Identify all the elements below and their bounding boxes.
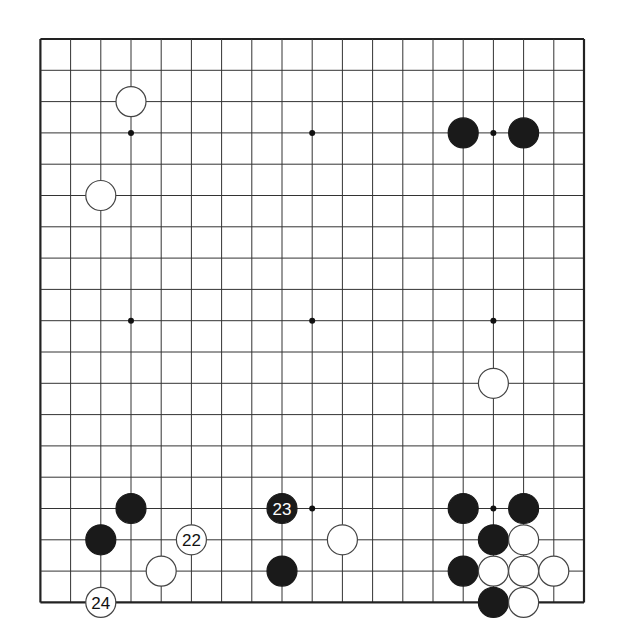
white-stone bbox=[478, 368, 508, 398]
star-point bbox=[128, 318, 134, 324]
white-stone: 22 bbox=[176, 525, 206, 555]
star-point bbox=[309, 506, 315, 512]
white-stone bbox=[86, 181, 116, 211]
black-stone bbox=[478, 587, 508, 617]
white-stone bbox=[509, 525, 539, 555]
white-stone: 24 bbox=[86, 587, 116, 617]
black-stone bbox=[267, 556, 297, 586]
white-stone bbox=[116, 87, 146, 117]
white-stone bbox=[146, 556, 176, 586]
black-stone: 23 bbox=[267, 494, 297, 524]
black-stone bbox=[478, 525, 508, 555]
white-stone bbox=[327, 525, 357, 555]
star-point bbox=[490, 318, 496, 324]
white-stone bbox=[509, 556, 539, 586]
white-stone bbox=[478, 556, 508, 586]
star-point bbox=[490, 130, 496, 136]
black-stone bbox=[448, 556, 478, 586]
black-stone bbox=[509, 118, 539, 148]
white-stone bbox=[509, 587, 539, 617]
star-point bbox=[309, 130, 315, 136]
black-stone bbox=[509, 494, 539, 524]
black-stone bbox=[448, 494, 478, 524]
go-board: 222423 bbox=[0, 0, 628, 643]
star-point bbox=[128, 130, 134, 136]
white-stone bbox=[539, 556, 569, 586]
black-stone bbox=[116, 494, 146, 524]
move-number-label: 22 bbox=[182, 531, 201, 550]
star-point bbox=[490, 506, 496, 512]
move-number-label: 24 bbox=[91, 594, 110, 613]
black-stone bbox=[86, 525, 116, 555]
star-point bbox=[309, 318, 315, 324]
black-stone bbox=[448, 118, 478, 148]
move-number-label: 23 bbox=[273, 500, 292, 519]
